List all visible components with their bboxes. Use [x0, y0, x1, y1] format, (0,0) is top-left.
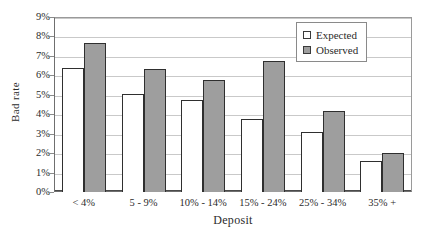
- bar-observed[interactable]: [263, 61, 285, 192]
- y-axis-tick-label: 4%: [22, 109, 50, 119]
- bar-group: [233, 17, 293, 192]
- chart-legend: ExpectedObserved: [296, 22, 367, 62]
- bar-expected[interactable]: [62, 68, 84, 192]
- x-axis-tick-label: 15% - 24%: [233, 197, 293, 208]
- y-axis-tickmark: [48, 17, 54, 18]
- y-axis-tickmark: [48, 114, 54, 115]
- y-axis-tickmark: [48, 134, 54, 135]
- bar-expected[interactable]: [122, 94, 144, 192]
- bar-group: [54, 17, 114, 192]
- y-axis-tick-label: 1%: [22, 168, 50, 178]
- bar-expected[interactable]: [181, 100, 203, 192]
- legend-swatch-icon: [303, 31, 311, 39]
- legend-label: Expected: [316, 29, 357, 41]
- bar-observed[interactable]: [323, 111, 345, 192]
- y-axis-tickmark: [48, 56, 54, 57]
- x-axis-title: Deposit: [54, 213, 412, 228]
- legend-item[interactable]: Expected: [303, 27, 358, 42]
- y-axis-tickmark: [48, 95, 54, 96]
- legend-label: Observed: [316, 44, 358, 56]
- bar-observed[interactable]: [382, 153, 404, 192]
- bar-expected[interactable]: [360, 161, 382, 192]
- bar-expected[interactable]: [301, 132, 323, 192]
- x-axis-tick-label: 5 - 9%: [114, 197, 174, 208]
- bar-group: [173, 17, 233, 192]
- y-axis-tick-label: 6%: [22, 70, 50, 80]
- legend-swatch-icon: [303, 46, 311, 54]
- y-axis-tick-label: 0%: [22, 187, 50, 197]
- y-axis-tick-label: 3%: [22, 129, 50, 139]
- bar-chart: Bad rate 0%1%2%3%4%5%6%7%8%9% < 4%5 - 9%…: [0, 0, 431, 247]
- y-axis-tickmark: [48, 75, 54, 76]
- y-axis-tick-label: 8%: [22, 31, 50, 41]
- legend-item[interactable]: Observed: [303, 42, 358, 57]
- y-axis-tick-label: 9%: [22, 12, 50, 22]
- x-axis-tick-label: 25% - 34%: [293, 197, 353, 208]
- bar-observed[interactable]: [84, 43, 106, 192]
- bar-observed[interactable]: [144, 69, 166, 192]
- x-axis-tick-label: 10% - 14%: [173, 197, 233, 208]
- y-axis-tick-label: 2%: [22, 148, 50, 158]
- y-axis-title: Bad rate: [9, 57, 21, 147]
- x-axis-tick-labels: < 4%5 - 9%10% - 14%15% - 24%25% - 34%35%…: [54, 197, 412, 208]
- y-axis-tickmark: [48, 173, 54, 174]
- x-axis-tick-label: < 4%: [54, 197, 114, 208]
- y-axis-tickmark: [48, 192, 54, 193]
- y-axis-tick-label: 5%: [22, 90, 50, 100]
- y-axis-tickmark: [48, 36, 54, 37]
- y-axis-tick-labels: 0%1%2%3%4%5%6%7%8%9%: [22, 17, 50, 192]
- bar-expected[interactable]: [241, 119, 263, 193]
- bar-observed[interactable]: [203, 80, 225, 192]
- x-axis-tick-label: 35% +: [352, 197, 412, 208]
- bar-group: [114, 17, 174, 192]
- y-axis-tickmark: [48, 153, 54, 154]
- y-axis-tick-label: 7%: [22, 51, 50, 61]
